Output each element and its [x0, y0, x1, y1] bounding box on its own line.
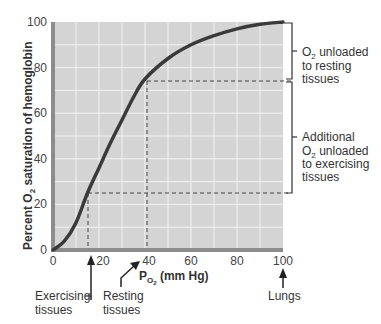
y-tick-label: 100: [27, 15, 47, 29]
y-tick-label: 40: [34, 152, 48, 166]
x-tick-label: 40: [142, 254, 156, 268]
y-tick-label: 20: [34, 197, 48, 211]
lungs-label: Lungs: [268, 289, 301, 303]
lungs-arrow-icon: [279, 268, 287, 288]
exercising-label-2: tissues: [35, 303, 72, 317]
resting-label-2: tissues: [103, 303, 140, 317]
x-tick-label: 100: [273, 254, 293, 268]
y-tick-label: 60: [34, 106, 48, 120]
x-axis-bar: [51, 248, 283, 252]
bracket-lines: [284, 23, 297, 193]
x-tick-label: 80: [230, 254, 244, 268]
y-tick-label: 80: [34, 61, 48, 75]
x-tick-label: 20: [96, 254, 110, 268]
resting-label: Resting: [103, 289, 144, 303]
x-tick-label: 60: [184, 254, 198, 268]
x-axis-title: PO2 (mm Hg): [139, 269, 209, 286]
y-axis-bar: [51, 22, 55, 252]
bracket2-label: Additional O2 unloaded to exercising tis…: [302, 130, 373, 184]
oxygen-dissociation-chart: 020406080100 020406080100 Percent O2 sat…: [0, 0, 381, 324]
x-tick-labels: 020406080100: [50, 254, 294, 268]
y-axis-title: Percent O2 saturation of hemoglobin: [21, 42, 37, 250]
bracket1-label: O2 unloaded to resting tissues: [302, 45, 372, 86]
x-tick-label: 0: [50, 254, 57, 268]
exercising-label: Exercising: [35, 289, 90, 303]
y-tick-label: 0: [40, 243, 47, 257]
resting-arrow-icon: [121, 261, 140, 287]
